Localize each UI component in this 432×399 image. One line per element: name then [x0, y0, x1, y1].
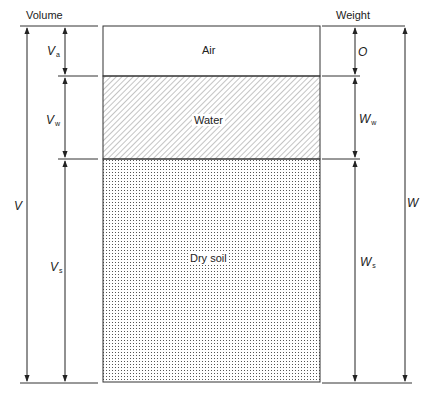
volume-dimension-arrows: [27, 28, 65, 381]
volume-header: Volume: [26, 9, 63, 21]
phase-label-dry-soil: Dry soil: [188, 252, 229, 264]
volume-reference-lines: [20, 26, 98, 383]
weight-header: Weight: [336, 9, 370, 21]
weight-air-label: O: [358, 45, 367, 59]
volume-total-label: V: [14, 199, 22, 213]
weight-water-label: Ww: [359, 112, 376, 126]
volume-water-label: Vw: [46, 113, 60, 127]
weight-solid-label: Ws: [360, 255, 376, 269]
soil-box: [103, 26, 320, 382]
weight-total-label: W: [407, 196, 418, 210]
volume-solid-label: Vs: [50, 260, 63, 274]
weight-dimension-arrows: [355, 28, 405, 381]
phase-label-water: Water: [192, 114, 225, 126]
phase-label-air: Air: [200, 44, 217, 56]
weight-reference-lines: [322, 26, 412, 383]
volume-air-label: Va: [47, 44, 60, 58]
phase-diagram: [0, 0, 432, 399]
